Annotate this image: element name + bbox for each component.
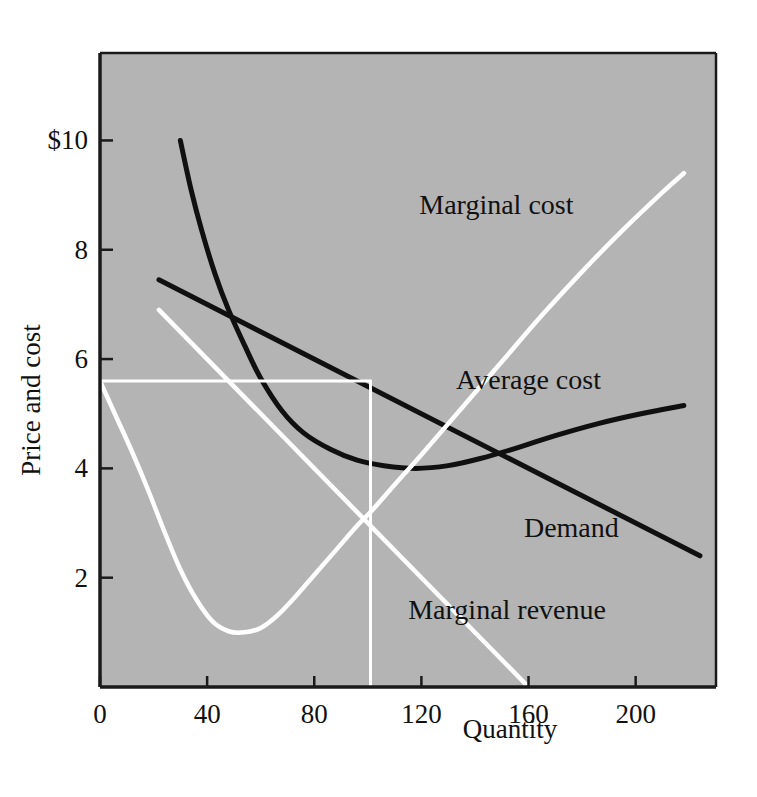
chart-svg: 040801201602002468$10 Marginal costAvera…	[0, 0, 757, 797]
x-tick-label: 0	[93, 699, 107, 729]
economics-chart-figure: 040801201602002468$10 Marginal costAvera…	[0, 0, 757, 797]
x-tick-label: 80	[301, 699, 328, 729]
annotation-marginal-cost: Marginal cost	[419, 189, 573, 220]
annotation-average-cost: Average cost	[456, 364, 601, 395]
annotation-demand: Demand	[524, 512, 619, 543]
y-tick-label: 4	[75, 453, 89, 483]
x-tick-label: 200	[615, 699, 656, 729]
annotation-marginal-revenue: Marginal revenue	[408, 594, 606, 625]
y-tick-label: 6	[75, 344, 89, 374]
y-tick-label: 2	[75, 563, 89, 593]
y-tick-label: 8	[75, 235, 89, 265]
y-axis-title: Price and cost	[16, 324, 46, 476]
x-tick-label: 120	[401, 699, 442, 729]
y-tick-label: $10	[48, 125, 89, 155]
x-tick-label: 40	[194, 699, 221, 729]
x-axis-title: Quantity	[463, 714, 558, 744]
